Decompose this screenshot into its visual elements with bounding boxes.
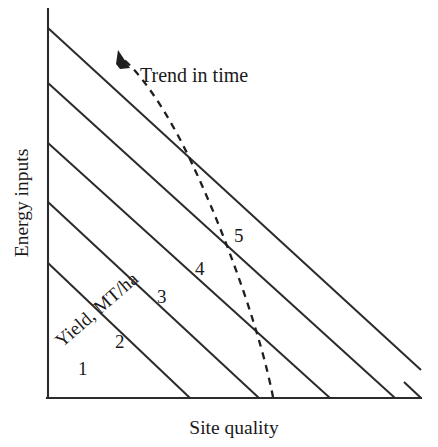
trend-in-time-dashed-line bbox=[122, 58, 273, 397]
trend-in-time-label: Trend in time bbox=[140, 64, 248, 86]
trend-arrow-group bbox=[116, 50, 273, 397]
iso-label-1: 1 bbox=[78, 358, 88, 379]
trend-arrowhead-icon bbox=[116, 50, 130, 69]
chart-canvas: 1 2 3 4 5 Yield, MT/ha Trend in time Sit… bbox=[0, 0, 438, 447]
x-axis-label: Site quality bbox=[189, 417, 279, 438]
iso-label-2: 2 bbox=[115, 331, 125, 352]
iso-yield-line-4 bbox=[48, 83, 395, 398]
y-axis-label: Energy inputs bbox=[11, 149, 32, 258]
iso-yield-line-3 bbox=[48, 143, 330, 398]
iso-label-4: 4 bbox=[195, 258, 205, 279]
iso-yield-line-5-tail bbox=[404, 382, 421, 398]
iso-label-5: 5 bbox=[234, 225, 244, 246]
figure-root: 1 2 3 4 5 Yield, MT/ha Trend in time Sit… bbox=[0, 0, 438, 447]
iso-label-3: 3 bbox=[157, 286, 167, 307]
